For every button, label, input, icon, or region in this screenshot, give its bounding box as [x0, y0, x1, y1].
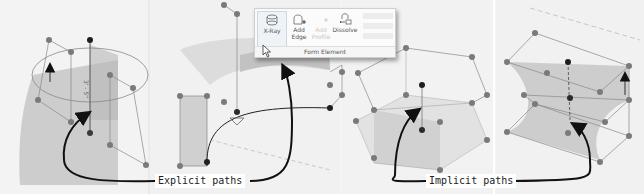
- add-profile-icon: [314, 13, 328, 25]
- dimension-label: 3' - 5": [83, 80, 90, 98]
- add-profile-label-2: Profile: [312, 33, 331, 40]
- add-profile-label-1: Add: [315, 26, 327, 33]
- x-ray-label: X-Ray: [263, 27, 280, 34]
- dissolve-button[interactable]: Dissolve: [331, 11, 359, 45]
- x-ray-icon: [265, 14, 279, 26]
- panel-title: Form Element: [255, 46, 395, 57]
- diagram-canvas: 3' - 5": [0, 0, 644, 194]
- add-edge-icon: [292, 13, 306, 25]
- dissolve-icon: [338, 13, 352, 25]
- form-element-ribbon-panel: X-Ray Add Edge Add Profile: [254, 8, 396, 58]
- mouse-cursor-icon: [262, 44, 272, 58]
- x-ray-button[interactable]: X-Ray: [257, 11, 287, 47]
- disabled-menu-item: [363, 33, 393, 39]
- disabled-menu-item: [363, 13, 393, 19]
- dissolve-label: Dissolve: [332, 26, 357, 33]
- add-edge-label-1: Add: [293, 26, 305, 33]
- explicit-paths-label: Explicit paths: [155, 174, 245, 188]
- add-edge-label-2: Edge: [291, 33, 306, 40]
- implicit-paths-label: Implicit paths: [426, 174, 516, 188]
- disabled-menu-item: [363, 23, 393, 29]
